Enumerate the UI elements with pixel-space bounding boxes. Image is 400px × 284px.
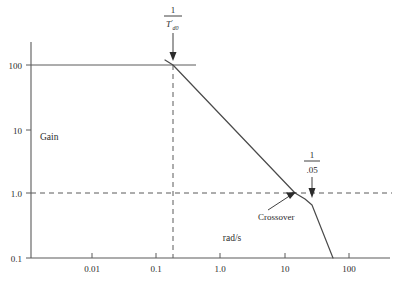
y-tick-label-10: 10: [13, 126, 23, 136]
x-tick-label-1: 1.0: [214, 264, 226, 274]
x-axis-title: rad/s: [223, 233, 242, 243]
x-tick-label-001: 0.01: [84, 264, 100, 274]
corner2-denominator: .05: [306, 165, 318, 175]
x-tick-label-100: 100: [342, 264, 356, 274]
corner1-numerator: 1: [171, 5, 176, 15]
plot-background: [0, 0, 400, 284]
x-tick-label-01: 0.1: [150, 264, 161, 274]
y-axis-title: Gain: [40, 132, 59, 142]
y-tick-label-01: 0.1: [11, 254, 22, 264]
y-tick-label-100: 100: [9, 61, 23, 71]
crossover-label: Crossover: [258, 212, 295, 222]
corner2-numerator: 1: [310, 150, 315, 160]
corner1-denominator-sub: d0: [173, 25, 179, 31]
x-tick-label-10: 10: [281, 264, 291, 274]
y-tick-label-1: 1.0: [11, 189, 23, 199]
bode-magnitude-plot: 100 10 1.0 0.1 0.01 0.1 1.0 10 100 1 T′d…: [0, 0, 400, 284]
